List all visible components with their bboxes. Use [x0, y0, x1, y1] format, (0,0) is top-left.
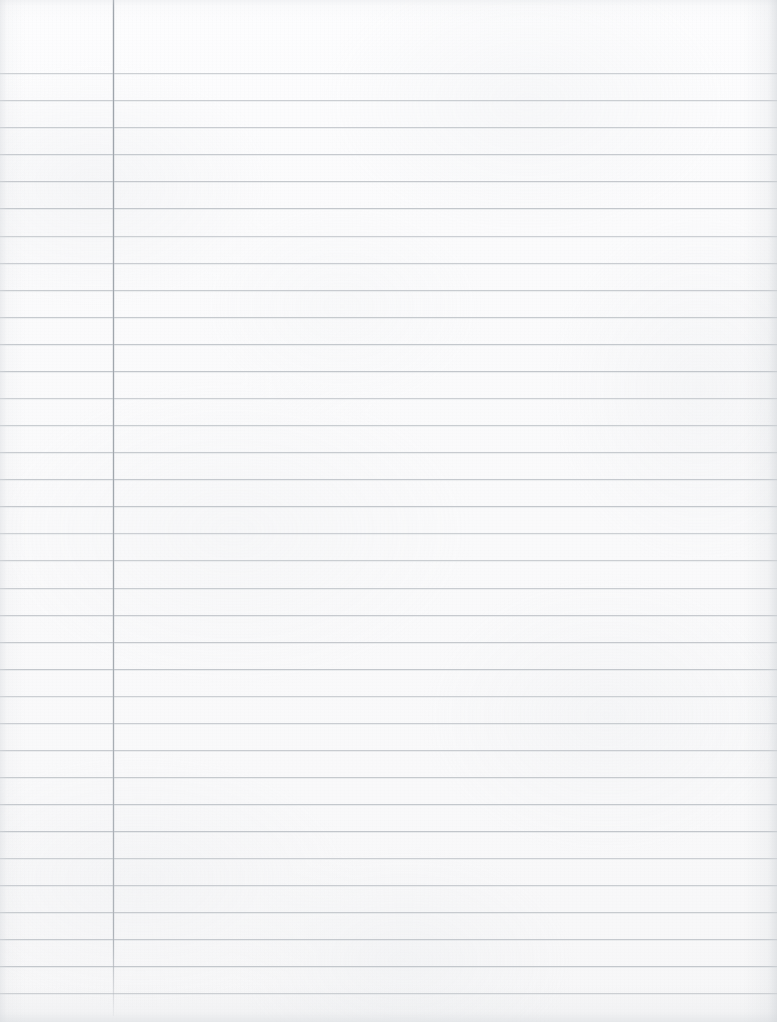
- ruled-line: [0, 154, 777, 155]
- ruled-line: [0, 371, 777, 372]
- ruled-line: [0, 750, 777, 751]
- ruled-line: [0, 804, 777, 805]
- ruled-line: [0, 696, 777, 697]
- ruled-line: [0, 73, 777, 74]
- ruled-line: [0, 993, 777, 994]
- ruled-line: [0, 208, 777, 209]
- ruled-line: [0, 615, 777, 616]
- ruled-line: [0, 777, 777, 778]
- ruled-line: [0, 560, 777, 561]
- ruled-line: [0, 181, 777, 182]
- ruled-line: [0, 533, 777, 534]
- ruled-line: [0, 885, 777, 886]
- ruled-line: [0, 127, 777, 128]
- ruled-line: [0, 858, 777, 859]
- ruled-line: [0, 100, 777, 101]
- ruled-line: [0, 398, 777, 399]
- ruled-line: [0, 317, 777, 318]
- ruled-line: [0, 479, 777, 480]
- ruled-line: [0, 588, 777, 589]
- ruled-line: [0, 425, 777, 426]
- ruled-line: [0, 939, 777, 940]
- ruled-line: [0, 263, 777, 264]
- ruled-line: [0, 966, 777, 967]
- left-margin-line: [113, 0, 114, 1016]
- ruled-line: [0, 723, 777, 724]
- notebook-page: [0, 0, 777, 1022]
- ruled-line: [0, 236, 777, 237]
- ruled-line: [0, 831, 777, 832]
- ruled-line: [0, 290, 777, 291]
- ruled-line: [0, 642, 777, 643]
- ruled-line: [0, 669, 777, 670]
- ruled-line: [0, 344, 777, 345]
- ruled-line: [0, 452, 777, 453]
- ruled-line: [0, 506, 777, 507]
- ruled-line: [0, 912, 777, 913]
